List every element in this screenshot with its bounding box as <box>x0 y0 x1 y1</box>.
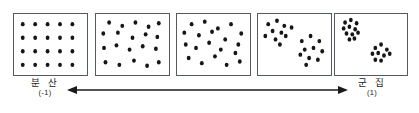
scatter-plot-2 <box>96 14 169 75</box>
scatter-dot <box>194 46 198 50</box>
scatter-dot <box>304 63 308 67</box>
continuum-axis: 분 산 (-1) 군 집 (1) <box>0 78 419 113</box>
scatter-dot <box>197 33 201 37</box>
scatter-dot <box>238 59 242 63</box>
scatter-dot <box>128 47 132 51</box>
clustering-continuum-figure: 분 산 (-1) 군 집 (1) <box>0 0 419 113</box>
scatter-dot <box>348 37 352 41</box>
scatter-dot <box>101 31 105 35</box>
scatter-dot <box>342 26 346 30</box>
axis-label-clustering-term: 군 집 <box>341 78 403 88</box>
scatter-dot <box>116 30 120 34</box>
scatter-dot <box>141 44 145 48</box>
scatter-dot <box>182 30 186 34</box>
scatter-panel-random <box>176 13 251 76</box>
scatter-dot <box>102 46 106 50</box>
scatter-dot <box>316 58 320 62</box>
scatter-dot <box>379 58 383 62</box>
scatter-dot <box>356 30 360 34</box>
scatter-dot <box>290 25 294 29</box>
scatter-dot <box>349 18 353 22</box>
scatter-dot <box>379 42 383 46</box>
scatter-dot <box>46 63 50 67</box>
scatter-dot <box>21 63 25 67</box>
scatter-dot <box>298 52 302 56</box>
scatter-dot <box>282 24 286 28</box>
scatter-dot <box>350 32 354 36</box>
scatter-dot <box>371 52 375 56</box>
scatter-dot <box>46 36 50 40</box>
scatter-dot <box>216 26 220 30</box>
scatter-dot <box>343 20 347 24</box>
scatter-panel-dispersed-regular <box>13 13 88 76</box>
scatter-dot <box>207 41 211 45</box>
scatter-dot <box>33 36 37 40</box>
scatter-dot <box>145 63 149 67</box>
scatter-dot <box>71 36 75 40</box>
scatter-dot <box>373 58 377 62</box>
scatter-dot <box>263 34 267 38</box>
scatter-dot <box>239 31 243 35</box>
scatter-dot <box>46 49 50 53</box>
scatter-dot <box>33 49 37 53</box>
scatter-dot <box>115 43 119 47</box>
scatter-dot <box>58 63 62 67</box>
scatter-dot <box>229 22 233 26</box>
scatter-dot <box>348 25 352 29</box>
scatter-dot <box>33 22 37 26</box>
scatter-panel-two-tight-clusters <box>334 13 408 76</box>
scatter-dot <box>345 31 349 35</box>
scatter-dot <box>21 36 25 40</box>
scatter-dot <box>373 46 377 50</box>
scatter-plot-3 <box>177 14 250 75</box>
scatter-dot <box>187 56 191 60</box>
scatter-dot <box>184 42 188 46</box>
scatter-panel-jittered-grid <box>95 13 170 76</box>
scatter-dot <box>353 36 357 40</box>
scatter-dot <box>71 49 75 53</box>
scatter-dot <box>134 20 138 24</box>
scatter-dot <box>144 32 148 36</box>
scatter-dot <box>157 60 161 64</box>
scatter-dot <box>33 63 37 67</box>
scatter-dot <box>353 27 357 31</box>
scatter-dot <box>309 34 313 38</box>
scatter-dot <box>213 54 217 58</box>
scatter-plot-5 <box>335 14 407 75</box>
axis-label-dispersion-term: 분 산 <box>14 78 76 88</box>
scatter-plot-4 <box>258 14 331 75</box>
axis-label-dispersion: 분 산 (-1) <box>14 78 76 97</box>
scatter-dot <box>107 20 111 24</box>
scatter-dot <box>71 63 75 67</box>
scatter-dot <box>307 56 311 60</box>
scatter-dot <box>71 22 75 26</box>
scatter-dot <box>46 22 50 26</box>
scatter-dot <box>274 37 278 41</box>
scatter-dot <box>190 22 194 26</box>
scatter-dot <box>223 37 227 41</box>
axis-label-dispersion-value: (-1) <box>14 89 76 97</box>
scatter-dot <box>117 63 121 67</box>
scatter-dot <box>219 47 223 51</box>
panel-row <box>0 0 419 80</box>
scatter-dot <box>147 25 151 29</box>
scatter-dot <box>385 47 389 51</box>
scatter-dot <box>155 35 159 39</box>
axis-label-clustering: 군 집 (1) <box>341 78 403 97</box>
scatter-dot <box>355 21 359 25</box>
scatter-dot <box>157 21 161 25</box>
scatter-dot <box>300 39 304 43</box>
scatter-dot <box>312 46 316 50</box>
scatter-dot <box>376 51 380 55</box>
scatter-dot <box>104 60 108 64</box>
scatter-dot <box>154 47 158 51</box>
scatter-dot <box>266 22 270 26</box>
scatter-dot <box>200 61 204 65</box>
scatter-dot <box>271 29 275 33</box>
scatter-dot <box>320 49 324 53</box>
scatter-dot <box>234 51 238 55</box>
scatter-dot <box>278 42 282 46</box>
scatter-dot <box>131 36 135 40</box>
scatter-dot <box>21 49 25 53</box>
scatter-dot <box>303 47 307 51</box>
